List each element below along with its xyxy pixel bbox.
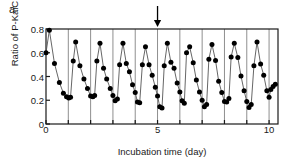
figure-panel-a: a Ratio of P-KaiC Incubation time (day) … (0, 0, 283, 165)
data-line-p-kaic (46, 30, 275, 108)
data-point-markers (44, 28, 278, 111)
chart-plot-area (0, 0, 283, 165)
down-arrow-marker (154, 6, 161, 27)
